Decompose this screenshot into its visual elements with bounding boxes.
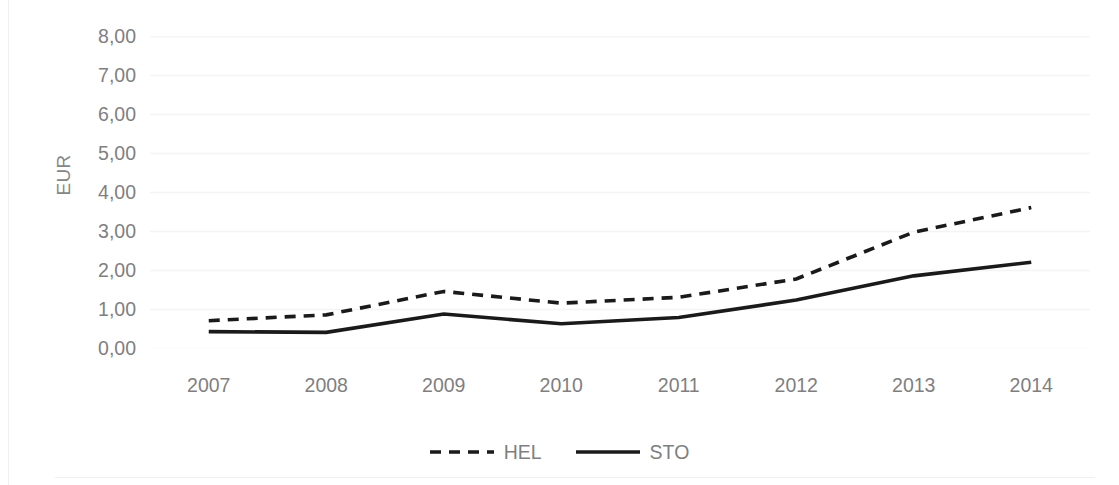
y-axis-tick-labels: 8,007,006,005,004,003,002,001,000,00 (58, 0, 136, 485)
legend-item-sto[interactable]: STO (576, 441, 690, 464)
series-line-hel (209, 208, 1032, 321)
y-axis-tick-label: 7,00 (58, 64, 136, 87)
chart-legend: HELSTO (0, 432, 1119, 472)
plot-area (150, 36, 1090, 348)
series-line-sto (209, 262, 1032, 332)
x-axis-tick-labels: 20072008200920102011201220132014 (0, 374, 1119, 404)
y-axis-tick-label: 2,00 (58, 259, 136, 282)
y-axis-tick-label: 1,00 (58, 298, 136, 321)
x-axis-tick-label: 2014 (986, 374, 1076, 397)
x-axis-tick-label: 2013 (869, 374, 959, 397)
legend-swatch-sto-icon (576, 445, 640, 459)
page-edge-left-rule (8, 0, 9, 485)
legend-swatch-hel-icon (430, 445, 494, 459)
legend-label: STO (650, 441, 690, 464)
line-chart: EUR 8,007,006,005,004,003,002,001,000,00… (0, 0, 1119, 485)
x-axis-tick-label: 2011 (634, 374, 724, 397)
y-axis-tick-label: 5,00 (58, 142, 136, 165)
series-lines (150, 36, 1090, 348)
page-edge-bottom-rule (55, 477, 1095, 478)
x-axis-tick-label: 2012 (751, 374, 841, 397)
x-axis-tick-label: 2010 (516, 374, 606, 397)
y-axis-tick-label: 8,00 (58, 25, 136, 48)
y-axis-tick-label: 0,00 (58, 337, 136, 360)
legend-item-hel[interactable]: HEL (430, 441, 542, 464)
legend-label: HEL (504, 441, 542, 464)
x-axis-tick-label: 2009 (399, 374, 489, 397)
x-axis-tick-label: 2007 (164, 374, 254, 397)
y-axis-tick-label: 3,00 (58, 220, 136, 243)
x-axis-tick-label: 2008 (281, 374, 371, 397)
y-axis-tick-label: 4,00 (58, 181, 136, 204)
y-axis-tick-label: 6,00 (58, 103, 136, 126)
